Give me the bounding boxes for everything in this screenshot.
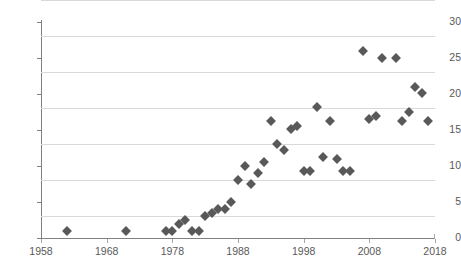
x-tick-label: 1988 [226,245,249,257]
data-point [417,88,427,98]
x-tick-mark [304,239,305,243]
data-point [279,145,289,155]
data-point [233,175,243,185]
data-point [226,197,236,207]
data-point [397,116,407,126]
x-tick-mark [238,239,239,243]
data-point [220,204,230,214]
x-tick-label: 1968 [95,245,118,257]
data-point [246,179,256,189]
x-tick-mark [41,239,42,243]
scatter-chart: 051015202530 195819681978198819982008201… [0,0,461,273]
x-tick-mark [369,239,370,243]
data-point [332,154,342,164]
gridline [41,0,435,1]
x-tick-label: 2018 [423,245,446,257]
data-point [423,116,433,126]
data-point [305,166,315,176]
data-point [358,46,368,56]
x-tick-label: 1998 [292,245,315,257]
data-point [259,157,269,167]
data-point [253,168,263,178]
x-tick-mark [172,239,173,243]
data-point [240,161,250,171]
data-point [121,226,131,236]
data-point [318,152,328,162]
data-point [325,116,335,126]
x-tick-label: 2008 [358,245,381,257]
data-point [312,102,322,112]
data-points-layer [41,22,435,238]
data-point [345,166,355,176]
x-tick-mark [107,239,108,243]
x-tick-label: 1978 [161,245,184,257]
data-point [391,53,401,63]
x-tick-label: 1958 [29,245,52,257]
data-point [266,116,276,126]
data-point [404,107,414,117]
data-point [378,53,388,63]
data-point [167,226,177,236]
data-point [62,226,72,236]
data-point [194,226,204,236]
